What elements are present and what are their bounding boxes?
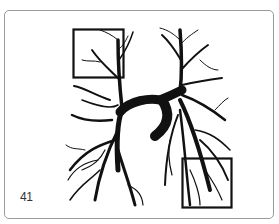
vascular-tree-illustration xyxy=(0,0,279,224)
figure-number-label: 41 xyxy=(20,190,32,204)
top-left-highlight-box xyxy=(74,30,124,78)
